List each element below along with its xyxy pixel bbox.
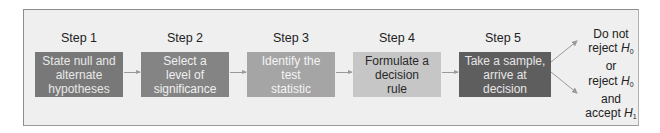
outcome-line: reject H0 bbox=[582, 41, 640, 59]
outcome-line: or bbox=[582, 59, 640, 73]
outcome-line: reject H0 bbox=[582, 74, 640, 92]
outcome-word: accept bbox=[585, 106, 624, 120]
outcome-word: reject bbox=[588, 41, 621, 55]
h-subscript: 0 bbox=[630, 81, 634, 88]
h-symbol: H bbox=[621, 74, 630, 88]
outcome-line: Do not bbox=[582, 27, 640, 41]
h-subscript: 0 bbox=[630, 48, 634, 55]
outcome-text: Do not reject H0 or reject H0 and accept… bbox=[582, 27, 640, 124]
branch-arrows-icon bbox=[0, 0, 660, 133]
outcome-line: and bbox=[582, 92, 640, 106]
outcome-line: accept H1 bbox=[582, 106, 640, 124]
h-subscript: 1 bbox=[633, 113, 637, 120]
outcome-word: reject bbox=[588, 74, 621, 88]
h-symbol: H bbox=[624, 106, 633, 120]
h-symbol: H bbox=[621, 41, 630, 55]
